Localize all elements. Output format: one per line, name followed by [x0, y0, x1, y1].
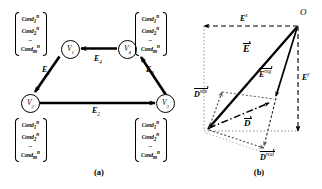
condition-row: Cond1n: [21, 13, 40, 25]
figure-root: V1 V2 V3 V4 E1 E2 E3 E4 Cond1n Cond2: [0, 0, 322, 189]
condition-row: Condmn: [21, 43, 40, 55]
condition-row-ellipsis: ...: [141, 36, 160, 43]
bracket-right: [42, 12, 47, 56]
condition-rows: Cond1n Cond2n ... Condmn: [139, 12, 162, 56]
condition-row: Cond1n: [21, 119, 40, 131]
bracket-right: [162, 12, 167, 56]
vector-d-line: [209, 103, 269, 128]
condition-row: Cond2n: [141, 25, 160, 37]
vector-dsim-line: [209, 92, 222, 128]
node-v1[interactable]: V1: [61, 40, 80, 59]
panel-a-caption: (a): [84, 167, 114, 177]
panel-b-caption: (b): [244, 167, 274, 177]
condition-row: Cond2n: [21, 25, 40, 37]
condition-row-ellipsis: ...: [21, 36, 40, 43]
condition-block-bottom-left: Cond1n Cond2n ... Condmn: [14, 118, 47, 162]
bracket-right: [162, 118, 167, 162]
node-v1-label: V1: [67, 44, 74, 55]
condition-block-top-right: Cond1n Cond2n ... Condmn: [134, 12, 167, 56]
condition-rows: Cond1n Cond2n ... Condmn: [139, 118, 162, 162]
panel-b-vectors-svg: [196, 0, 322, 189]
vector-dreal-line: [209, 130, 264, 148]
guide-outer-dotted: [206, 133, 262, 152]
vector-label-dsim: Dsim: [194, 89, 207, 99]
condition-rows: Cond1n Cond2n ... Condmn: [19, 12, 42, 56]
edge-label-e4: E4: [94, 55, 102, 65]
bracket-left: [14, 12, 19, 56]
condition-row: Cond1n: [141, 13, 160, 25]
vector-label-d: D: [244, 119, 251, 128]
node-v4-label: V4: [124, 44, 131, 55]
node-v2[interactable]: V2: [21, 94, 40, 113]
bracket-left: [14, 118, 19, 162]
bracket-left: [134, 12, 139, 56]
edge-label-e1: E1: [42, 66, 50, 76]
panel-b-vector-diagram: O Ex Ey E Ereg D Dsim Dreal (b): [196, 0, 322, 189]
node-v2-label: V2: [27, 98, 34, 109]
vector-label-dreal: Dreal: [260, 152, 274, 162]
condition-row: Condmn: [21, 149, 40, 161]
condition-row: Condmn: [141, 149, 160, 161]
vector-label-ereg: Ereg: [259, 69, 271, 79]
condition-row: Cond2n: [21, 131, 40, 143]
bracket-right: [42, 118, 47, 162]
vector-label-ey: Ey: [302, 72, 310, 82]
vector-label-e: E: [243, 44, 250, 54]
edge-label-e3: E3: [146, 66, 154, 76]
edge-label-e2: E2: [92, 107, 100, 117]
node-v3-label: V3: [162, 98, 169, 109]
condition-row: Cond2n: [141, 131, 160, 143]
condition-row-ellipsis: ...: [141, 142, 160, 149]
condition-row: Cond1n: [141, 119, 160, 131]
condition-rows: Cond1n Cond2n ... Condmn: [19, 118, 42, 162]
vector-label-ex: Ex: [240, 13, 248, 23]
condition-block-top-left: Cond1n Cond2n ... Condmn: [14, 12, 47, 56]
node-v3[interactable]: V3: [156, 94, 175, 113]
condition-row-ellipsis: ...: [21, 142, 40, 149]
vector-e-line: [208, 27, 297, 129]
condition-row: Condmn: [141, 43, 160, 55]
panel-a-directed-graph: V1 V2 V3 V4 E1 E2 E3 E4 Cond1n Cond2: [0, 0, 196, 189]
condition-block-bottom-right: Cond1n Cond2n ... Condmn: [134, 118, 167, 162]
guide-dreal-connector: [264, 98, 276, 146]
bracket-left: [134, 118, 139, 162]
edge-e3-line: [141, 57, 166, 95]
origin-label-o: O: [300, 8, 307, 17]
guide-dsim-connector: [222, 92, 274, 99]
